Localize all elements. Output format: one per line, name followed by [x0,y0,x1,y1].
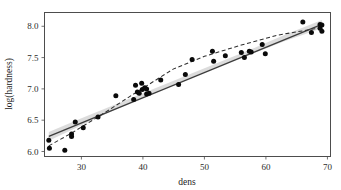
x-tick-label: 40 [138,162,148,172]
data-point [183,72,188,77]
y-axis-title: log(hardness) [4,58,15,110]
data-point [96,115,101,120]
y-tick-label: 6.0 [27,147,39,157]
data-point [249,49,254,54]
data-point [73,120,78,125]
x-tick-label: 70 [323,162,333,172]
data-point [62,148,67,153]
y-axis-tick-labels: 6.06.57.07.58.0 [27,21,39,156]
y-tick-label: 7.5 [27,53,39,63]
y-tick-label: 7.0 [27,84,39,94]
y-tick-label: 8.0 [27,21,39,31]
data-point [239,50,244,55]
data-point [263,51,268,56]
data-point [47,146,52,151]
data-point [211,59,216,64]
x-tick-label: 60 [261,162,271,172]
data-point [176,82,181,87]
x-axis-title: dens [178,177,196,187]
data-point [242,55,247,60]
data-point [133,83,138,88]
data-point [309,30,314,35]
data-point [69,134,74,139]
data-point [319,23,324,28]
x-tick-label: 50 [200,162,210,172]
data-point [319,29,324,34]
data-point [158,78,163,83]
data-point [139,81,144,86]
data-point [300,19,305,24]
data-point [210,49,215,54]
y-tick-label: 6.5 [27,115,39,125]
data-point [223,53,228,58]
x-axis-tick-labels: 3040506070 [77,162,333,172]
data-point [46,138,51,143]
data-point [131,97,136,102]
scatter-plot-svg: 3040506070 6.06.57.07.58.0 dens log(hard… [0,0,341,190]
chart-figure: 3040506070 6.06.57.07.58.0 dens log(hard… [0,0,341,190]
data-point [147,91,152,96]
data-point [260,42,265,47]
x-tick-label: 30 [77,162,87,172]
data-point [113,93,118,98]
data-point [81,125,86,130]
data-point [190,57,195,62]
data-point [144,86,149,91]
